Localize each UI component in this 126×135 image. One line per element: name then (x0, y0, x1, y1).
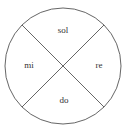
sector-label-top: sol (58, 25, 69, 35)
sector-label-left: mi (24, 60, 34, 70)
sector-diagram: sol re do mi (0, 0, 126, 135)
sector-label-bottom: do (60, 95, 70, 105)
sector-label-right: re (96, 60, 103, 70)
